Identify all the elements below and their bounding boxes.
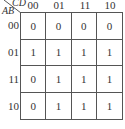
kmap-cell: 1 <box>72 66 97 93</box>
col-header: 00 <box>20 0 46 11</box>
kmap-cell: 1 <box>97 40 122 67</box>
kmap-cell: 0 <box>21 13 46 40</box>
kmap-cell: 0 <box>72 13 97 40</box>
kmap-cell: 0 <box>97 13 122 40</box>
kmap-cell: 1 <box>46 40 71 67</box>
row-variable-label: AB <box>2 5 14 16</box>
kmap-cell: 1 <box>21 40 46 67</box>
kmap-corner: CD AB <box>0 0 20 12</box>
kmap-cell: 1 <box>72 40 97 67</box>
kmap-cell: 1 <box>46 66 71 93</box>
kmap-cell: 1 <box>97 93 122 120</box>
kmap-cell: 0 <box>21 66 46 93</box>
kmap-grid: 0 0 0 0 1 1 1 1 0 1 1 1 0 1 1 1 <box>20 12 123 120</box>
kmap-cell: 0 <box>21 93 46 120</box>
kmap-cell: 1 <box>97 66 122 93</box>
kmap-cell: 1 <box>46 93 71 120</box>
row-header: 00 <box>0 19 19 31</box>
col-header: 10 <box>97 0 123 11</box>
col-header: 01 <box>46 0 72 11</box>
col-header: 11 <box>72 0 98 11</box>
kmap-cell: 1 <box>72 93 97 120</box>
row-header: 10 <box>0 100 19 112</box>
row-header: 11 <box>0 73 19 85</box>
row-header: 01 <box>0 46 19 58</box>
kmap-cell: 0 <box>46 13 71 40</box>
